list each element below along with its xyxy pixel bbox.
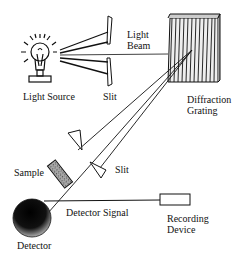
light-bulb-icon [21, 34, 57, 82]
slit-icon [107, 16, 112, 86]
label-diffraction-1: Diffraction [187, 94, 231, 105]
label-slit-top: Slit [103, 91, 117, 102]
detector-sphere-icon [13, 199, 51, 237]
label-light-source: Light Source [23, 91, 75, 102]
grating-icon [168, 14, 220, 82]
label-recording-1: Recording [167, 213, 209, 224]
label-light-beam-2: Beam [127, 40, 150, 51]
label-light-beam-1: Light [127, 29, 149, 40]
label-slit-bottom: Slit [115, 164, 129, 175]
recorder-box-icon [160, 194, 190, 205]
label-detector-signal: Detector Signal [66, 207, 128, 218]
label-diffraction-2: Grating [187, 105, 218, 116]
sample-cuvette-icon [47, 160, 72, 188]
label-sample: Sample [14, 167, 44, 178]
label-detector: Detector [17, 240, 51, 251]
label-recording-2: Device [167, 224, 195, 235]
